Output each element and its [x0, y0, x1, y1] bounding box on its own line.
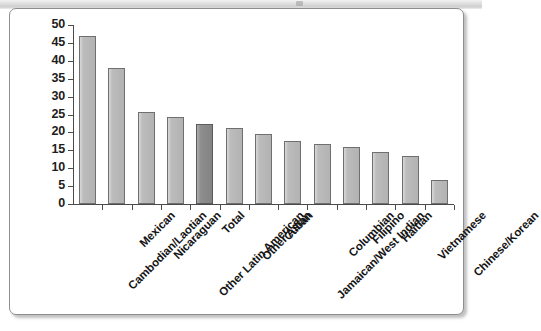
y-tick-10: [68, 168, 73, 169]
plot-area: 05101520253035404550: [73, 25, 454, 204]
y-tick-15: [68, 150, 73, 151]
bar-cambodian-laotian: [79, 36, 96, 204]
bar-chinese-korean: [431, 180, 448, 204]
bar-jamaican-west-indian: [284, 141, 301, 204]
bar-mexican: [108, 68, 125, 204]
y-tick-label-35: 35: [33, 71, 65, 85]
x-axis-label-vietnamese: Vietnamese: [435, 209, 488, 262]
y-tick-30: [68, 97, 73, 98]
y-tick-label-25: 25: [33, 107, 65, 121]
y-tick-label-50: 50: [33, 17, 65, 31]
y-tick-label-0: 0: [33, 196, 65, 210]
y-tick-5: [68, 186, 73, 187]
bar-columbian: [314, 144, 331, 204]
y-tick-label-20: 20: [33, 124, 65, 138]
y-tick-label-30: 30: [33, 89, 65, 103]
bar-other-latin-american: [167, 117, 184, 204]
bar-cuban: [255, 134, 272, 204]
chart-panel: 05101520253035404550 Cambodian/LaotianMe…: [9, 8, 464, 315]
scan-speck: [296, 1, 303, 6]
bar-total: [196, 124, 213, 204]
y-tick-label-15: 15: [33, 142, 65, 156]
y-tick-label-10: 10: [33, 160, 65, 174]
y-tick-45: [68, 43, 73, 44]
bar-filipino: [343, 147, 360, 204]
y-tick-label-45: 45: [33, 35, 65, 49]
y-tick-label-5: 5: [33, 178, 65, 192]
y-tick-50: [68, 25, 73, 26]
y-tick-40: [68, 61, 73, 62]
x-axis-line: [73, 204, 454, 205]
bar-haitian: [372, 152, 389, 204]
x-axis-label-total: Total: [220, 209, 247, 236]
y-tick-25: [68, 115, 73, 116]
y-tick-0: [68, 204, 73, 205]
y-axis-line: [73, 25, 74, 205]
y-tick-label-40: 40: [33, 53, 65, 67]
bar-nicaraguan: [138, 112, 155, 204]
x-axis-labels: Cambodian/LaotianMexicanNicaraguanOther …: [73, 209, 473, 314]
bar-other-asian: [226, 128, 243, 204]
y-tick-20: [68, 132, 73, 133]
y-tick-35: [68, 79, 73, 80]
bar-vietnamese: [402, 156, 419, 204]
